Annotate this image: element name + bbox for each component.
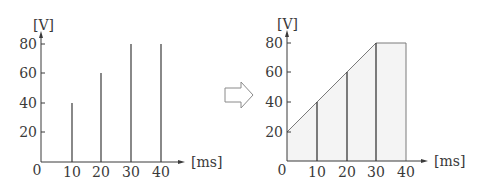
left-origin: 0: [33, 162, 42, 178]
right-y-label: [V]: [277, 16, 298, 32]
left-x-arrow-icon: [178, 160, 185, 164]
transform-arrow-icon: [225, 82, 253, 108]
right-y-tick: 80: [265, 35, 283, 51]
left-chart-labels: [V] 20 40 60 80 0 10 20 30 40 [ms]: [19, 17, 222, 180]
right-origin: 0: [278, 162, 287, 178]
left-x-tick: 40: [152, 164, 170, 180]
right-x-tick: 30: [367, 164, 385, 180]
right-x-label: [ms]: [434, 153, 465, 169]
left-y-tick: 20: [19, 124, 37, 140]
left-y-tick: 40: [19, 95, 37, 111]
right-x-arrow-icon: [421, 159, 428, 163]
right-chart: [285, 30, 428, 163]
right-y-tick: 20: [265, 124, 283, 140]
left-x-tick: 10: [63, 164, 81, 180]
right-y-tick: 40: [265, 94, 283, 110]
left-y-label: [V]: [33, 17, 54, 33]
left-x-label: [ms]: [191, 154, 222, 170]
right-x-tick: 40: [397, 164, 415, 180]
right-y-tick: 60: [265, 64, 283, 80]
right-x-tick: 20: [338, 164, 356, 180]
left-x-tick: 20: [92, 164, 110, 180]
left-y-tick: 80: [19, 36, 37, 52]
figure: [V] 20 40 60 80 0 10 20 30 40 [ms] [V]: [0, 0, 481, 188]
left-x-tick: 30: [122, 164, 140, 180]
left-y-tick: 60: [19, 65, 37, 81]
left-chart: [39, 31, 185, 164]
right-x-tick: 10: [308, 164, 326, 180]
